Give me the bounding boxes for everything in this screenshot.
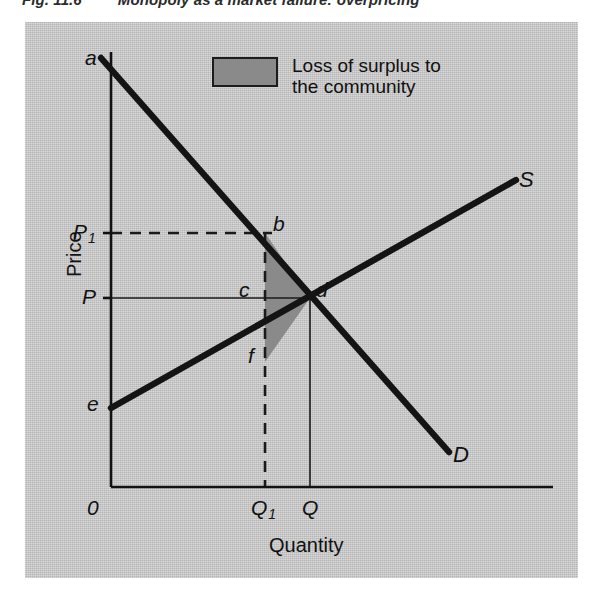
axis-origin-label: 0 <box>87 496 99 520</box>
point-label-c: c <box>239 278 250 302</box>
y-tick-label-p: P <box>82 285 96 309</box>
x-tick-label-q1-subscript: 1 <box>268 506 276 522</box>
legend-swatch-loss-of-surplus <box>212 57 278 87</box>
y-tick-label-p1-subscript: 1 <box>88 230 96 246</box>
supply-curve <box>111 180 516 408</box>
legend-label: Loss of surplus to the community <box>292 55 441 97</box>
supply-demand-plot <box>25 22 578 578</box>
demand-curve <box>101 58 449 452</box>
point-label-a: a <box>85 46 97 70</box>
figure-root: Fig. 11.6Monopoly as a market failure: o… <box>0 0 607 604</box>
y-tick-label-p1: P1 <box>73 220 95 244</box>
point-label-d: d <box>316 278 328 302</box>
point-label-e: e <box>87 392 99 416</box>
supply-curve-label: S <box>519 167 534 193</box>
figure-title: Monopoly as a market failure: overpricin… <box>118 0 420 8</box>
figure-panel: Loss of surplus to the community Price P… <box>25 22 578 578</box>
point-label-b: b <box>273 212 285 236</box>
demand-curve-label: D <box>453 442 469 468</box>
figure-caption: Fig. 11.6Monopoly as a market failure: o… <box>0 0 607 15</box>
x-axis-title: Quantity <box>269 534 343 557</box>
x-tick-label-q: Q <box>302 496 318 520</box>
legend: Loss of surplus to the community <box>212 55 441 97</box>
legend-line-2: the community <box>292 76 441 97</box>
figure-number: Fig. 11.6 <box>22 0 82 8</box>
legend-line-1: Loss of surplus to <box>292 55 441 76</box>
x-tick-label-q1: Q1 <box>251 496 275 520</box>
point-label-f: f <box>248 344 254 368</box>
